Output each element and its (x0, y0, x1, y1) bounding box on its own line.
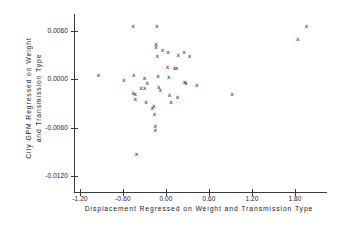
data-point: x (167, 92, 173, 98)
data-point: x (174, 65, 180, 71)
data-point: x (303, 23, 309, 29)
data-point: x (183, 80, 189, 86)
scatter-plot-figure: 0.00600.0000-0.0060-0.0120 -1.20-0.600.0… (0, 0, 338, 229)
data-point: x (131, 72, 137, 78)
data-point: x (157, 87, 163, 93)
data-point: x (155, 73, 161, 79)
data-point: x (144, 80, 150, 86)
data-point: x (295, 36, 301, 42)
data-point: x (151, 103, 157, 109)
data-point: x (143, 99, 149, 105)
data-point: x (152, 127, 158, 133)
data-point: x (153, 44, 159, 50)
data-point: x (96, 72, 102, 78)
data-point: x (165, 49, 171, 55)
x-axis-title: Displacement Regressed on Weight and Tra… (60, 205, 338, 212)
data-point: x (134, 151, 140, 157)
data-point: x (152, 111, 158, 117)
y-axis-title-line-1: City GPM Regressed on Weight (24, 0, 34, 198)
data-point: x (164, 64, 170, 70)
y-axis-title-line-2: and Transmission Type (34, 0, 44, 198)
data-point: x (194, 82, 200, 88)
data-point: x (166, 74, 172, 80)
data-point: x (132, 96, 138, 102)
data-point: x (154, 53, 160, 59)
data-point: x (142, 85, 148, 91)
data-point: x (121, 77, 127, 83)
data-point: x (229, 91, 235, 97)
data-point: x (174, 94, 180, 100)
data-point: x (187, 53, 193, 59)
data-point: x (130, 23, 136, 29)
y-axis-title: City GPM Regressed on Weight and Transmi… (24, 0, 44, 198)
data-point: x (154, 23, 160, 29)
data-point: x (168, 99, 174, 105)
data-point-layer: xxxxxxxxxxxxxxxxxxxxxxxxxxxxxxxxxxxxxxxx… (0, 0, 338, 229)
